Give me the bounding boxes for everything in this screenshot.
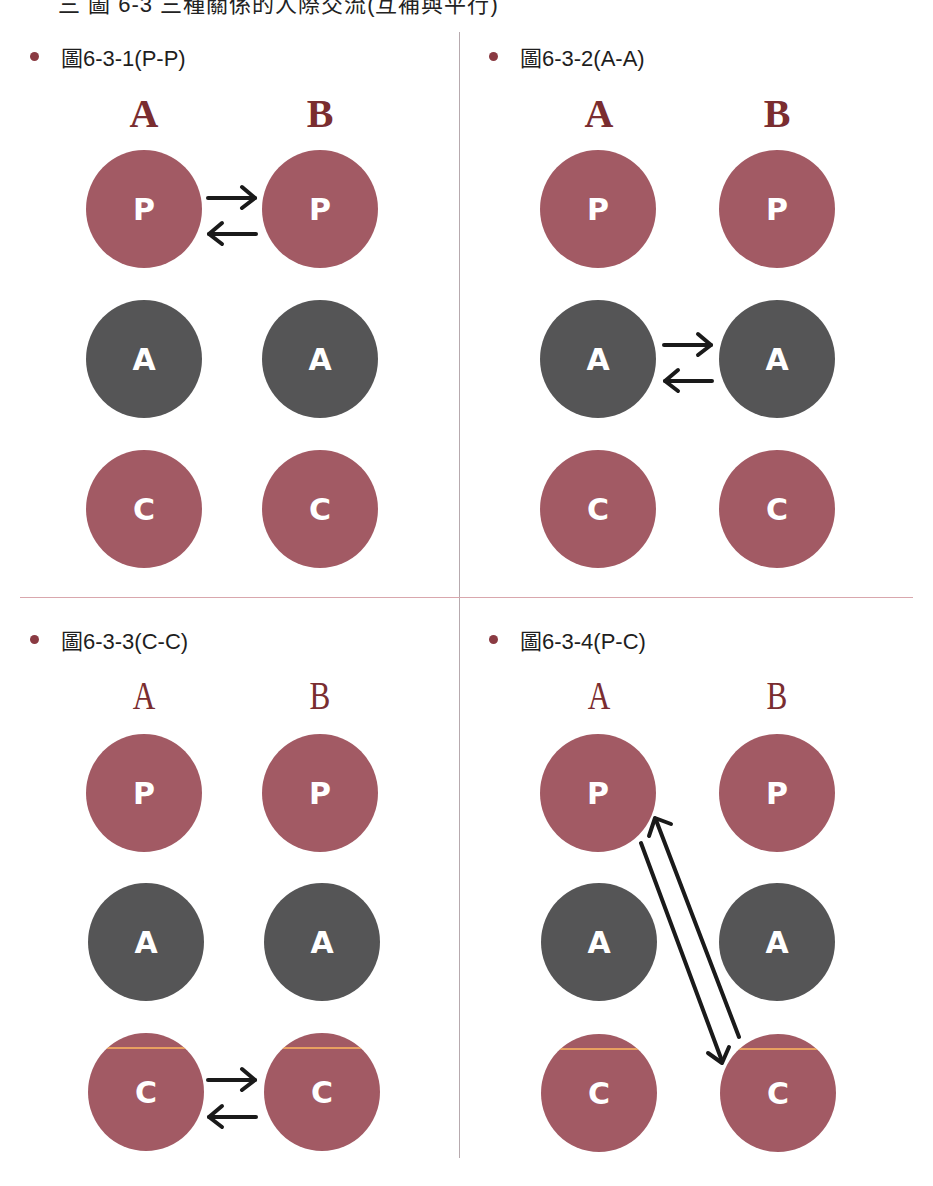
panel-a-a: 圖6-3-2(A-A) A B P P A A C C: [459, 32, 918, 592]
transaction-arrows-icon: [459, 32, 918, 592]
panel-c-c: 圖6-3-3(C-C) A B P P A A C C: [0, 615, 459, 1175]
transaction-arrows-icon: [0, 615, 459, 1175]
panel-p-p: 圖6-3-1(P-P) A B P P A A C C: [0, 32, 459, 592]
page-title: 三 圖 6-3 三種關係的人際交流(互補與平行): [58, 0, 499, 18]
transaction-arrows-icon: [459, 615, 918, 1175]
panel-p-c: 圖6-3-4(P-C) A B P P A A C C: [459, 615, 918, 1175]
horizontal-divider: [20, 597, 913, 598]
transaction-arrows-icon: [0, 32, 459, 592]
